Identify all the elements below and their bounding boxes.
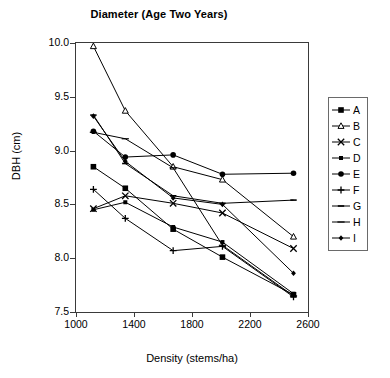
y-tick-mark xyxy=(70,312,75,313)
x-tick-mark xyxy=(308,312,309,317)
series-E xyxy=(91,128,297,177)
data-point-small-diamond xyxy=(339,235,344,241)
data-point-small-filled-square xyxy=(123,200,127,204)
data-point-x-cross xyxy=(290,245,296,251)
y-tick-mark xyxy=(70,258,75,259)
x-tick-mark xyxy=(134,312,135,317)
legend-item-I[interactable]: I xyxy=(331,230,365,246)
x-tick-mark xyxy=(250,312,251,317)
y-tick-label: 8.5 xyxy=(25,198,69,208)
legend-marker-filled-square-icon xyxy=(331,103,351,117)
x-tick-mark xyxy=(76,312,77,317)
legend-marker-x-cross-icon xyxy=(331,135,351,149)
legend-label: I xyxy=(351,231,356,245)
data-point-filled-circle xyxy=(338,171,344,177)
legend-item-E[interactable]: E xyxy=(331,166,365,182)
legend-marker-small-diamond-icon xyxy=(331,231,351,245)
legend-item-H[interactable]: H xyxy=(331,214,365,230)
data-point-small-filled-square xyxy=(171,225,175,229)
data-point-small-filled-square xyxy=(339,156,343,160)
x-tick-label: 1400 xyxy=(110,318,158,330)
legend-label: G xyxy=(351,199,361,213)
chart-figure: Diameter (Age Two Years) DBH (cm) Densit… xyxy=(0,0,390,378)
x-tick-label: 2600 xyxy=(284,318,332,330)
y-axis-label: DBH (cm) xyxy=(10,96,22,216)
legend-label: B xyxy=(351,119,360,133)
legend-marker-dash-icon xyxy=(331,199,351,213)
legend-item-D[interactable]: D xyxy=(331,150,365,166)
legend-item-F[interactable]: F xyxy=(331,182,365,198)
legend-label: A xyxy=(351,103,360,117)
y-tick-label: 10.0 xyxy=(25,37,69,47)
data-point-filled-circle xyxy=(170,152,176,158)
data-point-filled-square xyxy=(123,185,129,191)
data-point-filled-square xyxy=(220,254,226,260)
legend-marker-small-filled-square-icon xyxy=(331,151,351,165)
legend-label: H xyxy=(351,215,361,229)
y-tick-mark xyxy=(70,204,75,205)
y-tick-label: 9.5 xyxy=(25,91,69,101)
legend-marker-filled-circle-icon xyxy=(331,167,351,181)
x-axis-label: Density (stems/ha) xyxy=(75,352,309,364)
legend-marker-line-icon xyxy=(331,215,351,229)
series-G xyxy=(90,115,297,203)
y-tick-label: 7.5 xyxy=(25,306,69,316)
legend-label: D xyxy=(351,151,361,165)
data-point-open-triangle xyxy=(90,43,96,49)
data-point-open-triangle xyxy=(122,108,128,114)
y-tick-label: 9.0 xyxy=(25,145,69,155)
x-tick-label: 2200 xyxy=(226,318,274,330)
y-tick-mark xyxy=(70,97,75,98)
data-point-plus xyxy=(338,187,345,194)
legend-item-A[interactable]: A xyxy=(331,102,365,118)
series-B xyxy=(90,43,296,239)
y-tick-label: 8.0 xyxy=(25,252,69,262)
data-point-filled-square xyxy=(91,164,97,170)
legend-item-G[interactable]: G xyxy=(331,198,365,214)
x-tick-label: 1000 xyxy=(52,318,100,330)
plot-area xyxy=(75,42,309,313)
y-tick-mark xyxy=(70,151,75,152)
legend: ABCDEFGHI xyxy=(328,97,368,251)
legend-marker-open-triangle-icon xyxy=(331,119,351,133)
series-D xyxy=(91,200,295,295)
legend-label: F xyxy=(351,183,359,197)
data-point-open-triangle xyxy=(291,233,297,239)
legend-item-B[interactable]: B xyxy=(331,118,365,134)
y-tick-mark xyxy=(70,43,75,44)
x-tick-mark xyxy=(192,312,193,317)
legend-label: E xyxy=(351,167,360,181)
series-canvas xyxy=(76,43,308,312)
data-point-filled-circle xyxy=(291,170,297,176)
data-point-small-filled-square xyxy=(91,208,95,212)
data-point-filled-circle xyxy=(220,171,226,177)
legend-item-C[interactable]: C xyxy=(331,134,365,150)
x-tick-label: 1800 xyxy=(168,318,216,330)
data-point-plus xyxy=(170,247,177,254)
data-point-filled-square xyxy=(338,107,344,113)
legend-label: C xyxy=(351,135,361,149)
legend-marker-plus-icon xyxy=(331,183,351,197)
chart-title: Diameter (Age Two Years) xyxy=(0,8,318,20)
